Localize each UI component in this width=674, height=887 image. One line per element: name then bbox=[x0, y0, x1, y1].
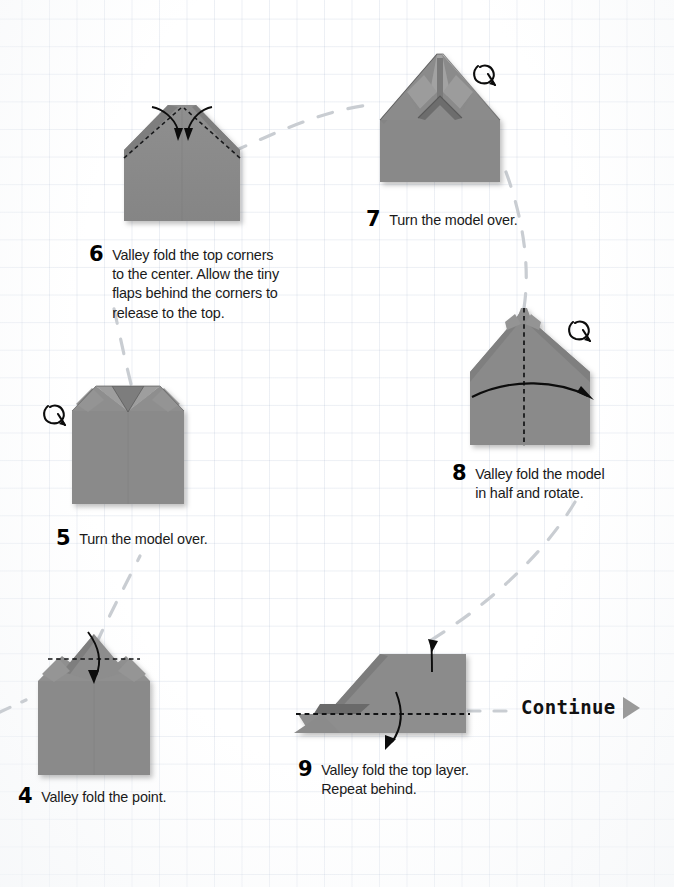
step-number-5: 5 bbox=[56, 529, 70, 548]
caption-step-4: 4 Valley fold the point. bbox=[18, 788, 238, 807]
step-text-4: Valley fold the point. bbox=[41, 788, 166, 807]
turnover-symbol-step-7 bbox=[468, 56, 502, 90]
turnover-symbol-step-8 bbox=[563, 312, 597, 346]
turnover-loop-icon bbox=[44, 406, 64, 424]
caption-step-7: 7 Turn the model over. bbox=[366, 211, 596, 230]
step-number-8: 8 bbox=[452, 464, 466, 483]
step-number-4: 4 bbox=[18, 787, 32, 806]
continue-label: Continue bbox=[521, 696, 616, 718]
step-text-8: Valley fold the model in half and rotate… bbox=[475, 465, 604, 503]
turnover-loop-icon bbox=[569, 322, 589, 340]
step-text-9: Valley fold the top layer. Repeat behind… bbox=[321, 761, 469, 799]
origami-instruction-page: 6 Valley fold the top corners to the cen… bbox=[0, 0, 674, 887]
step-text-7: Turn the model over. bbox=[389, 211, 517, 230]
caption-step-6: 6 Valley fold the top corners to the cen… bbox=[89, 246, 299, 323]
continue-marker[interactable]: Continue bbox=[521, 696, 640, 718]
step-number-9: 9 bbox=[298, 760, 312, 779]
diagram-step-9 bbox=[0, 0, 674, 887]
step-number-7: 7 bbox=[366, 210, 380, 229]
caption-step-5: 5 Turn the model over. bbox=[56, 530, 276, 549]
turnover-loop-icon bbox=[474, 66, 494, 84]
step-number-6: 6 bbox=[89, 245, 103, 264]
repeat-arrowhead-9 bbox=[428, 639, 438, 652]
step-text-6: Valley fold the top corners to the cente… bbox=[112, 246, 279, 323]
triangle-right-icon bbox=[623, 697, 640, 719]
step-text-5: Turn the model over. bbox=[79, 530, 207, 549]
caption-step-9: 9 Valley fold the top layer. Repeat behi… bbox=[298, 761, 528, 799]
turnover-symbol-step-5 bbox=[38, 396, 72, 430]
caption-step-8: 8 Valley fold the model in half and rota… bbox=[452, 465, 652, 503]
